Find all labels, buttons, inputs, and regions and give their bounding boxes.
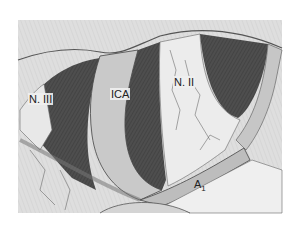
label-ica: ICA — [110, 88, 130, 100]
label-n2: N. II — [173, 76, 195, 88]
label-a1-sub: 1 — [201, 184, 205, 193]
label-a1: A1 — [193, 178, 207, 195]
label-n3: N. III — [28, 93, 53, 105]
anatomical-figure — [0, 0, 297, 235]
